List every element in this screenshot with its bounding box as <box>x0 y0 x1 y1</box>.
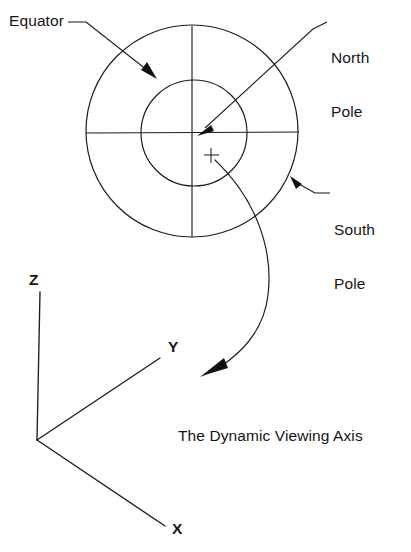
south-pole-leader <box>290 176 330 193</box>
south-pole-label: South Pole <box>334 185 375 329</box>
equator-label: Equator <box>9 12 64 30</box>
z-axis-label: Z <box>29 271 39 289</box>
center-crosshair-icon <box>204 148 219 163</box>
equator-leader <box>68 22 157 79</box>
viewing-axis-arrowhead-icon <box>200 358 228 377</box>
figure-caption: The Dynamic Viewing Axis <box>178 427 363 445</box>
south-pole-label-line1: South <box>334 221 375 239</box>
north-pole-leader <box>197 22 327 136</box>
north-pole-label-line1: North <box>331 49 369 67</box>
y-axis-label: Y <box>168 338 178 356</box>
y-axis-line <box>37 358 160 440</box>
south-pole-label-line2: Pole <box>334 275 375 293</box>
north-pole-label-line2: Pole <box>331 103 369 121</box>
x-axis-label: X <box>172 520 182 538</box>
x-axis-line <box>37 440 165 526</box>
north-pole-arrowhead-icon <box>197 125 214 136</box>
north-pole-label: North Pole <box>331 13 369 157</box>
south-pole-arrowhead-icon <box>290 176 302 189</box>
dynamic-viewing-axis-arrow <box>200 160 269 377</box>
equator-arrowhead-icon <box>141 62 157 79</box>
diagram-canvas: Equator North Pole South Pole Z Y X The … <box>0 0 411 552</box>
z-axis-line <box>37 292 40 440</box>
